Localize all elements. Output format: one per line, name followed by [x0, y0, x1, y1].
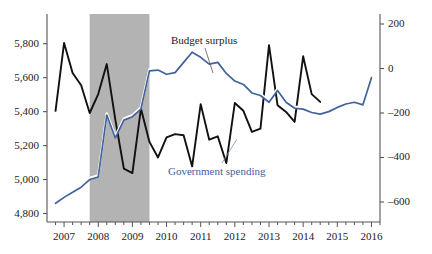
right-axis-tick-label: –400	[388, 151, 410, 162]
left-axis-tick-label: 5,600	[0, 72, 39, 83]
government-spending-annotation-label: Government spending	[168, 166, 265, 177]
left-axis-tick-label: 5,200	[0, 140, 39, 151]
x-axis-tick-label: 2016	[351, 231, 391, 242]
left-axis-tick-label: 4,800	[0, 208, 39, 219]
right-axis-tick-label: 0	[388, 63, 394, 74]
right-axis-tick-label: 200	[388, 18, 405, 29]
right-axis-tick-label: –600	[388, 196, 410, 207]
chart-container: 4,8005,0005,2005,4005,6005,800–600–400–2…	[0, 0, 432, 254]
right-axis-tick-label: –200	[388, 107, 410, 118]
left-axis-tick-label: 5,400	[0, 106, 39, 117]
budget-surplus-annotation-label: Budget surplus	[171, 35, 237, 46]
left-axis-tick-label: 5,000	[0, 174, 39, 185]
left-axis-tick-label: 5,800	[0, 38, 39, 49]
